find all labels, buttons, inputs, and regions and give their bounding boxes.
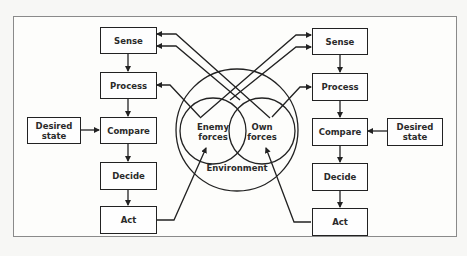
own-label-line1: Own (242, 122, 282, 132)
left-desired-state-box: Desired state (27, 117, 81, 144)
left-act-label: Act (121, 215, 137, 225)
right-compare-label: Compare (319, 127, 362, 137)
right-process-label: Process (321, 82, 358, 92)
left-process-box: Process (100, 72, 157, 99)
enemy-label-line1: Enemy (193, 122, 233, 132)
right-decide-label: Decide (324, 172, 357, 182)
left-sense-box: Sense (100, 27, 157, 54)
right-process-box: Process (312, 73, 368, 101)
right-act-label: Act (332, 217, 348, 227)
left-desired-state-label: Desired state (34, 121, 74, 141)
left-process-label: Process (110, 81, 147, 91)
enemy-forces-label: Enemy forces (193, 122, 233, 142)
left-compare-box: Compare (100, 117, 157, 144)
left-compare-label: Compare (107, 126, 150, 136)
left-decide-label: Decide (112, 171, 145, 181)
environment-label: Environment (202, 163, 272, 173)
right-desired-state-label: Desired state (395, 122, 435, 142)
right-compare-box: Compare (312, 118, 368, 146)
right-act-box: Act (312, 208, 368, 236)
right-sense-label: Sense (326, 37, 355, 47)
left-act-box: Act (100, 206, 157, 234)
right-decide-box: Decide (312, 163, 368, 191)
enemy-label-line2: forces (193, 132, 233, 142)
right-desired-state-box: Desired state (387, 118, 443, 146)
left-decide-box: Decide (100, 162, 157, 190)
right-sense-box: Sense (312, 28, 368, 55)
left-sense-label: Sense (114, 36, 143, 46)
own-label-line2: forces (242, 132, 282, 142)
own-forces-label: Own forces (242, 122, 282, 142)
